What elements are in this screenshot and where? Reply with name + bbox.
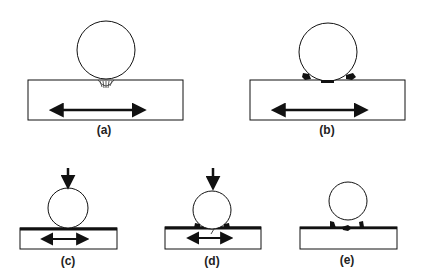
panel-label-e: (e) — [340, 253, 355, 267]
sphere-b — [299, 23, 357, 81]
sphere-d — [193, 191, 231, 229]
crack-d — [211, 229, 214, 234]
panel-label-a: (a) — [97, 123, 112, 137]
panel-d — [165, 168, 261, 249]
contact-hatch-a — [98, 80, 114, 88]
panel-a — [28, 21, 183, 120]
panel-c — [20, 168, 117, 249]
diagram-canvas — [0, 0, 423, 280]
substrate-b — [250, 80, 405, 120]
panel-b — [250, 23, 405, 120]
panel-label-b: (b) — [319, 123, 334, 137]
sphere-c — [48, 188, 88, 228]
debris-e — [330, 221, 364, 231]
sphere-e — [329, 182, 367, 220]
panel-label-c: (c) — [61, 254, 76, 268]
sphere-a — [77, 21, 135, 79]
panel-e — [300, 182, 397, 249]
panel-label-d: (d) — [204, 254, 219, 268]
